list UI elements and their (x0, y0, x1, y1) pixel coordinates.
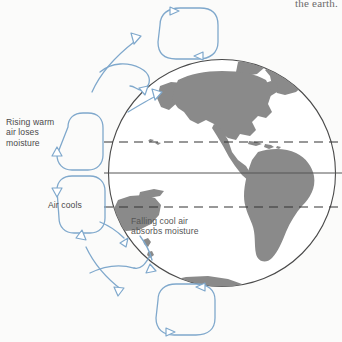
polar-cell-south-loop (156, 284, 215, 335)
lower-connector-cell (90, 256, 156, 273)
polar-cell-north-loop (158, 8, 218, 59)
lower-descent-arrowhead (114, 287, 124, 296)
diagram-canvas (0, 0, 342, 342)
label-rising-warm-air: Rising warm air loses moisture (6, 117, 54, 148)
upper-ascent-arrow-path (92, 42, 134, 92)
convection-diagram-figure: the earth. Rising warm air loses moistur… (0, 0, 342, 342)
bottom-outflow-arrowhead (76, 230, 86, 240)
label-air-cools: Air cools (48, 200, 82, 210)
hadley-upper-arrowhead-up (52, 147, 62, 156)
polar-cell-north (158, 7, 218, 60)
lower-connector-arrowhead (146, 264, 156, 273)
lower-descent-arrow-path (86, 247, 122, 290)
lower-inflow-arrowhead (120, 238, 128, 247)
hadley-cell-upper-left (52, 113, 103, 170)
lower-connector-path (90, 266, 134, 273)
globe-group (104, 58, 342, 299)
upper-connector-cell (100, 64, 149, 95)
hadley-lower-arrowhead-down (52, 188, 62, 197)
upper-connector-path (100, 64, 149, 88)
polar-cell-south (156, 283, 215, 336)
cut-off-caption: the earth. (295, 0, 338, 9)
hadley-upper-loop (57, 113, 103, 170)
label-falling-cool-air: Falling cool air absorbs moisture (131, 216, 199, 237)
